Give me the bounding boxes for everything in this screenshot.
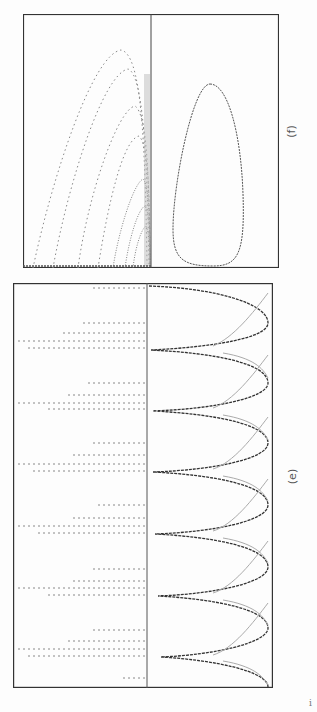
- panel-e-label: (e): [286, 469, 299, 484]
- page-mark: i: [309, 698, 312, 708]
- panel-f: [23, 14, 279, 268]
- panel-f-label: (f): [285, 125, 298, 137]
- panel-e-plot: [13, 283, 273, 688]
- panel-e: [13, 283, 273, 688]
- panel-f-plot: [23, 14, 279, 268]
